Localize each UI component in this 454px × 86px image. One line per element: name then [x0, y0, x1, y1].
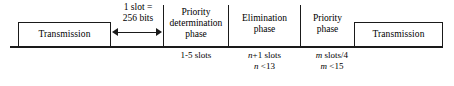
transmission-left-label: Transmission [38, 30, 90, 40]
annotation-elimination-line2: n <13 [229, 61, 300, 72]
slot-width-caption-line2: 256 bits [104, 13, 172, 24]
slot-width-arrow [112, 28, 162, 37]
phase-priority-line2: phase [301, 24, 354, 35]
slot-width-caption: 1 slot = 256 bits [104, 2, 172, 24]
annotation-elimination-rest1: +1 slots [253, 50, 281, 60]
transmission-right-label: Transmission [372, 30, 424, 40]
annotation-priority-rest1: slots/4 [322, 50, 348, 60]
phase-priority-line1: Priority [301, 13, 354, 24]
transmission-block-left: Transmission [18, 22, 111, 47]
annotation-priority-determination-line1: 1-5 slots [164, 50, 228, 61]
phase-priority-determination-line3: phase [164, 29, 228, 40]
timing-diagram: Transmission 1 slot = 256 bits Priority … [0, 0, 454, 86]
annotation-elimination-rest2: <13 [259, 61, 275, 71]
arrow-shaft [116, 32, 158, 33]
arrow-head-right-icon [156, 28, 162, 36]
annotation-elimination: n+1 slots n <13 [229, 50, 300, 72]
annotation-priority: m slots/4 m <15 [301, 50, 363, 72]
phase-label-elimination: Elimination phase [229, 13, 300, 35]
phase-label-priority: Priority phase [301, 13, 354, 35]
annotation-priority-line1: m slots/4 [301, 50, 363, 61]
annotation-priority-determination: 1-5 slots [164, 50, 228, 61]
phase-priority-determination-line2: determination [164, 18, 228, 29]
annotation-elimination-line1: n+1 slots [229, 50, 300, 61]
annotation-priority-line2: m <15 [301, 61, 363, 72]
transmission-block-right: Transmission [354, 22, 443, 47]
slot-width-caption-line1: 1 slot = [104, 2, 172, 13]
phase-priority-determination-line1: Priority [164, 7, 228, 18]
phase-elimination-line1: Elimination [229, 13, 300, 24]
phase-elimination-line2: phase [229, 24, 300, 35]
annotation-priority-rest2: <15 [327, 61, 343, 71]
phase-label-priority-determination: Priority determination phase [164, 7, 228, 40]
